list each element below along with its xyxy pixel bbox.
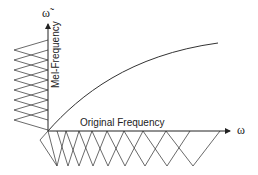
- x-axis-label: Original Frequency: [80, 117, 164, 128]
- linear-filter-bank: [40, 131, 220, 166]
- omega-tilde-symbol: ω̃: [42, 6, 50, 21]
- mel-filterbank-diagram: [0, 0, 258, 175]
- y-axis-label: Mel-Frequency: [50, 21, 61, 88]
- mel-filter-bank: [14, 40, 48, 130]
- omega-symbol: ω: [237, 123, 245, 138]
